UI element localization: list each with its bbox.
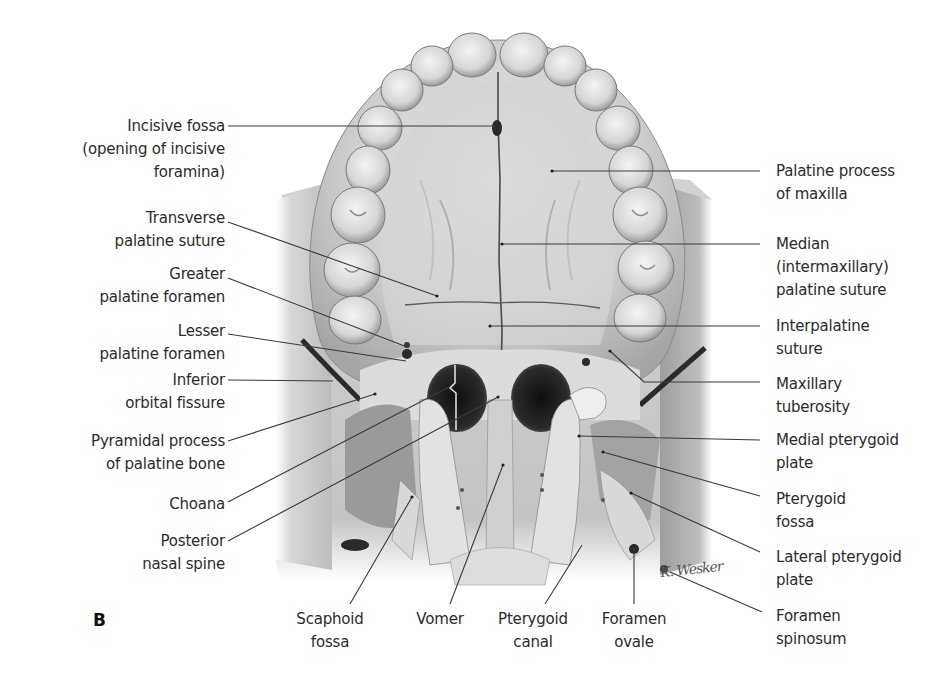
label-vomer: Vomer — [400, 608, 480, 631]
label-transverse-palatine-suture: Transverse palatine suture — [115, 207, 225, 253]
label-foramen-spinosum: Foramen spinosum — [776, 605, 847, 651]
label-lateral-pterygoid-plate: Lateral pterygoid plate — [776, 546, 902, 592]
label-foramen-ovale: Foramen ovale — [592, 608, 676, 654]
label-pterygoid-fossa: Pterygoid fossa — [776, 488, 846, 534]
label-greater-palatine-foramen: Greater palatine foramen — [99, 263, 225, 309]
label-choana: Choana — [169, 493, 225, 516]
label-lesser-palatine-foramen: Lesser palatine foramen — [99, 320, 225, 366]
panel-letter: B — [93, 610, 106, 630]
label-palatine-process-maxilla: Palatine process of maxilla — [776, 160, 895, 206]
label-pterygoid-canal: Pterygoid canal — [488, 608, 578, 654]
label-scaphoid-fossa: Scaphoid fossa — [290, 608, 370, 654]
leader-foramen-spinosum — [670, 572, 762, 612]
label-interpalatine-suture: Interpalatine suture — [776, 315, 869, 361]
label-posterior-nasal-spine: Posterior nasal spine — [142, 530, 225, 576]
label-inferior-orbital-fissure: Inferior orbital fissure — [125, 369, 225, 415]
anatomy-figure: K. Wesker Incisive fossa (opening of inc… — [0, 0, 945, 687]
label-medial-pterygoid-plate: Medial pterygoid plate — [776, 429, 899, 475]
label-maxillary-tuberosity: Maxillary tuberosity — [776, 373, 850, 419]
label-pyramidal-process: Pyramidal process of palatine bone — [91, 430, 225, 476]
label-median-palatine-suture: Median (intermaxillary) palatine suture — [776, 233, 889, 302]
label-incisive-fossa: Incisive fossa (opening of incisive fora… — [82, 115, 225, 184]
